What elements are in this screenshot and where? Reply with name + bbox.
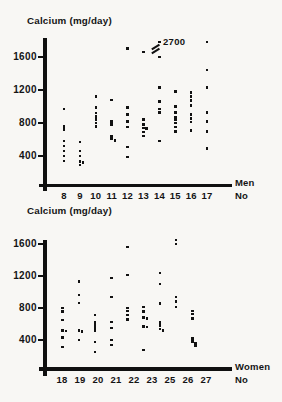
off-scale-value-annotation: 2700 <box>163 36 185 47</box>
data-point <box>61 346 64 349</box>
x-category-label: 26 <box>179 374 197 385</box>
data-point <box>81 330 84 333</box>
data-point <box>95 112 98 115</box>
y-tick <box>38 89 44 91</box>
data-point <box>206 130 209 133</box>
data-point <box>110 296 113 299</box>
data-point <box>110 327 113 330</box>
data-point <box>95 95 98 98</box>
data-point <box>126 126 129 129</box>
data-point <box>191 317 194 320</box>
y-tick-label: 400 <box>0 150 37 161</box>
data-point <box>174 118 177 121</box>
x-category-label: 21 <box>107 374 125 385</box>
data-point <box>194 344 197 347</box>
data-point <box>174 126 177 129</box>
data-point <box>63 145 66 148</box>
data-point <box>146 317 149 320</box>
data-point <box>142 306 145 309</box>
data-point <box>110 137 113 140</box>
data-point <box>190 113 193 116</box>
data-point <box>79 155 82 158</box>
women-y-axis-line <box>43 240 47 376</box>
data-point <box>126 318 129 321</box>
data-point <box>158 111 161 114</box>
x-category-label: 25 <box>161 374 179 385</box>
data-point <box>63 125 66 128</box>
data-point <box>175 300 178 303</box>
y-tick-label: 400 <box>0 334 37 345</box>
data-point <box>78 329 81 332</box>
data-point <box>61 329 64 332</box>
x-category-label: 19 <box>71 374 89 385</box>
data-point <box>110 123 113 126</box>
data-point <box>175 243 178 246</box>
data-point <box>142 316 145 319</box>
y-tick <box>38 56 44 58</box>
data-point <box>126 307 129 310</box>
data-point <box>63 160 66 163</box>
y-tick-label: 1600 <box>0 51 37 62</box>
data-point <box>63 150 66 153</box>
data-point <box>95 115 98 118</box>
data-point <box>126 120 129 123</box>
data-point <box>190 99 193 102</box>
x-category-label: 23 <box>143 374 161 385</box>
data-point <box>61 307 64 310</box>
women-group-label: Women <box>235 361 270 372</box>
data-point <box>110 99 113 102</box>
data-point <box>159 321 162 324</box>
data-point <box>158 86 161 89</box>
data-point <box>110 321 113 324</box>
data-point <box>191 337 194 340</box>
x-category-label: 22 <box>125 374 143 385</box>
men-axis-unit-label: No <box>235 190 248 201</box>
data-point <box>206 69 209 72</box>
data-point <box>174 111 177 114</box>
data-point <box>94 351 97 354</box>
data-point <box>190 129 193 132</box>
x-category-label: 17 <box>198 190 216 201</box>
y-tick <box>38 307 44 309</box>
data-point <box>190 121 193 124</box>
data-point <box>78 280 81 283</box>
data-point <box>159 324 162 327</box>
data-point <box>94 321 97 324</box>
data-point <box>126 113 129 116</box>
y-tick <box>38 339 44 341</box>
data-point <box>142 325 145 328</box>
data-point <box>146 326 149 329</box>
x-category-label: 18 <box>53 374 71 385</box>
women-chart-title: Calcium (mg/day) <box>27 205 112 216</box>
data-point <box>95 118 98 121</box>
data-point <box>126 106 129 109</box>
data-point <box>159 302 162 305</box>
data-point <box>79 160 82 163</box>
y-tick <box>38 243 44 245</box>
y-tick-label: 800 <box>0 117 37 128</box>
data-point <box>95 122 98 125</box>
data-point <box>61 336 64 339</box>
data-point <box>142 51 145 54</box>
y-tick <box>38 275 44 277</box>
data-point <box>94 341 97 344</box>
data-point <box>126 310 129 313</box>
x-category-label: 20 <box>89 374 107 385</box>
data-point <box>95 106 98 109</box>
data-point <box>126 156 129 159</box>
data-point <box>79 141 82 144</box>
axis-break-icon <box>151 44 162 54</box>
data-point <box>142 127 145 130</box>
data-point <box>174 130 177 133</box>
data-point <box>78 339 81 342</box>
data-point <box>174 90 177 93</box>
data-point <box>61 319 64 322</box>
data-point <box>206 111 209 114</box>
data-point <box>61 310 64 313</box>
data-point <box>158 100 161 103</box>
data-point <box>110 344 113 347</box>
y-tick-label: 800 <box>0 302 37 313</box>
data-point <box>175 306 178 309</box>
data-point <box>142 349 145 352</box>
x-category-label: 27 <box>197 374 215 385</box>
